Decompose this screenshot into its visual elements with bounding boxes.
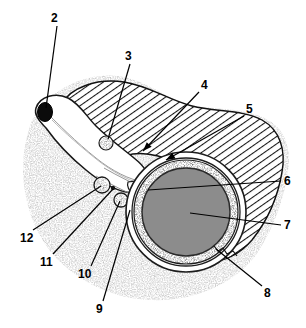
callout-10-number: 10 — [78, 268, 91, 280]
figure-root: 23456789101112 — [0, 0, 306, 328]
callout-2-number: 2 — [51, 12, 58, 24]
callout-6-number: 6 — [284, 175, 291, 187]
callout-7-number: 7 — [284, 219, 291, 231]
callout-11-number: 11 — [40, 256, 53, 268]
anatomical-diagram-svg — [0, 0, 306, 328]
small-stippled-circle-3 — [99, 136, 113, 150]
vessel-lumen — [142, 168, 230, 256]
dark-oval-structure — [38, 103, 53, 122]
callout-12-number: 12 — [20, 232, 33, 244]
small-stippled-circle-11 — [94, 177, 110, 193]
callout-9-number: 9 — [96, 303, 103, 315]
callout-8-number: 8 — [264, 287, 271, 299]
callout-5-number: 5 — [246, 103, 253, 115]
callout-3-number: 3 — [125, 50, 132, 62]
callout-4-number: 4 — [201, 79, 208, 91]
